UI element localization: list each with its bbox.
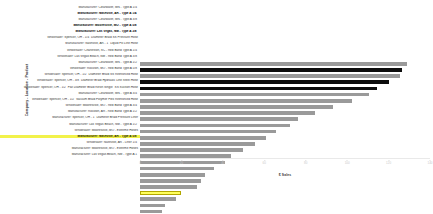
bar-row-label: Manufacturer: Nashville, AR - Type A 5/8… <box>0 135 140 138</box>
bar-row-label: Wholesaler: Spencer, OH - 1/2" Flat Diam… <box>0 86 140 89</box>
x-axis: $ Sales 020406080100120140 <box>140 158 430 180</box>
bar-row-label: Wholesaler: Spencer, OH - 3/8" Diameter … <box>0 79 140 82</box>
x-axis-title: $ Sales <box>140 173 430 177</box>
bar-row-label: Manufacturer: Spencer, OH - 1" Diameter … <box>0 116 140 119</box>
bar-row-label: Wholesaler: Mooresville, MO - Extreme Ho… <box>0 129 140 132</box>
x-axis-tick: 140 <box>427 160 432 166</box>
x-axis-tick-label: 120 <box>386 161 391 165</box>
x-axis-tick: 100 <box>345 160 350 166</box>
plot-area: Manufacturer: Clearwater, MN - Type A 1/… <box>0 4 430 158</box>
bar[interactable] <box>140 191 181 195</box>
bar[interactable] <box>140 185 197 189</box>
bar-row-label: Wholesaler: Spencer, OH - 1/4" Diameter … <box>0 36 140 39</box>
bar[interactable] <box>140 210 162 214</box>
bar-row-label: Wholesaler: Charleston, SC - Red Band Ty… <box>0 49 140 52</box>
x-axis-tick: 0 <box>139 160 141 166</box>
bar-row-label: Manufacturer: Clearwater, MN - Type A 1/… <box>0 6 140 9</box>
x-axis-tick: 20 <box>180 160 183 166</box>
x-axis-tick-label: 80 <box>304 161 307 165</box>
bar-row-label: Manufacturer: Las Vegas Beach, NM - Type… <box>0 153 140 156</box>
bar-row-label: Wholesaler: Las Vegas Beach, NM - Red Ba… <box>0 55 140 58</box>
x-axis-tick: 60 <box>263 160 266 166</box>
bar-row-label: Wholesaler: Spencer, OH - 1/2" Vacuum Br… <box>0 98 140 101</box>
bar-row-label: Manufacturer: Clearwater, MN - Type A 3/… <box>0 18 140 21</box>
x-axis-line <box>140 158 430 159</box>
bar-row-label: Manufacturer: Las Vegas, NM - Type A 3/8… <box>0 30 140 33</box>
bar-row-label: Manufacturer: Clearwater, MN - Type A 3/… <box>0 92 140 95</box>
x-axis-tick: 80 <box>304 160 307 166</box>
bar-row-label: Manufacturer: Rockton, AR - Red Band Typ… <box>0 110 140 113</box>
bar-track <box>140 152 430 158</box>
bar[interactable] <box>140 197 176 201</box>
bar-row-label: Wholesaler: Spencer, OH - 1/2" Diameter … <box>0 73 140 76</box>
x-axis-tick-label: 20 <box>180 161 183 165</box>
x-axis-tick-label: 60 <box>263 161 266 165</box>
bar-row-label: Manufacturer: Las Vegas Beach, NM - Type… <box>0 123 140 126</box>
bar-row-label: Manufacturer: Clearwater, MN - Type A 1/… <box>0 61 140 64</box>
x-axis-tick-label: 0 <box>139 161 141 165</box>
bar[interactable] <box>140 204 165 208</box>
bar-row-label: Manufacturer: Mooresville, MO - Type A 5… <box>0 24 140 27</box>
bar-row-label: Manufacturer: Nashville, AR - 1" Liquid … <box>0 42 140 45</box>
bar-row-label: Wholesaler: Nashville, AR - Liner 1/4" <box>0 141 140 144</box>
x-axis-tick: 120 <box>386 160 391 166</box>
bar-row-label: Manufacturer: Mooresville, MO - Extreme … <box>0 147 140 150</box>
bar-row-label: Manufacturer: Nashville, AR - Type A 1/4… <box>0 12 140 15</box>
x-axis-tick-label: 40 <box>221 161 224 165</box>
bar-row[interactable]: Manufacturer: Las Vegas Beach, NM - Type… <box>0 152 430 158</box>
x-axis-tick-label: 140 <box>427 161 432 165</box>
bar-row-label: Wholesaler: Mooresville, MO - Red Band T… <box>0 104 140 107</box>
x-axis-tick-label: 100 <box>345 161 350 165</box>
bar-row-label: Wholesaler: Rockton, MO - Red Band Type … <box>0 67 140 70</box>
x-axis-tick: 40 <box>221 160 224 166</box>
